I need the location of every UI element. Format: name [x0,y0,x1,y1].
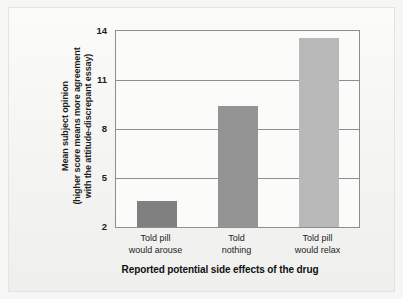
bar [218,106,258,227]
x-axis-tick-label-line: Told pill [277,233,358,245]
x-axis-tick-label-line: Told [196,233,277,245]
figure-container: Mean subject opinion (higher score means… [0,0,403,299]
y-axis-tick-label: 11 [93,74,111,85]
x-axis-tick-label-line: Told pill [115,233,196,245]
y-axis-tick-label: 2 [93,221,111,232]
x-axis-tick-label-line: would arouse [115,245,196,257]
bar [299,38,339,227]
plot-area [115,30,360,228]
y-axis-tick-label: 14 [93,25,111,36]
bar [137,201,177,227]
x-axis-tick-label-line: nothing [196,245,277,257]
x-axis-tick-label: Told pillwould relax [277,233,358,256]
y-axis-tick-labels: 2581114 [93,30,111,228]
x-axis-tick-labels: Told pillwould arouseToldnothingTold pil… [115,233,360,263]
y-axis-tick-label: 5 [93,172,111,183]
x-axis-tick-label: Toldnothing [196,233,277,256]
x-axis-title: Reported potential side effects of the d… [60,264,380,275]
x-axis-tick-label-line: would relax [277,245,358,257]
y-axis-tick-label: 8 [93,123,111,134]
x-axis-tick-label: Told pillwould arouse [115,233,196,256]
y-axis-title-line-1: Mean subject opinion [60,47,72,204]
y-axis-title-line-2: (higher score means more agreement [71,47,83,204]
